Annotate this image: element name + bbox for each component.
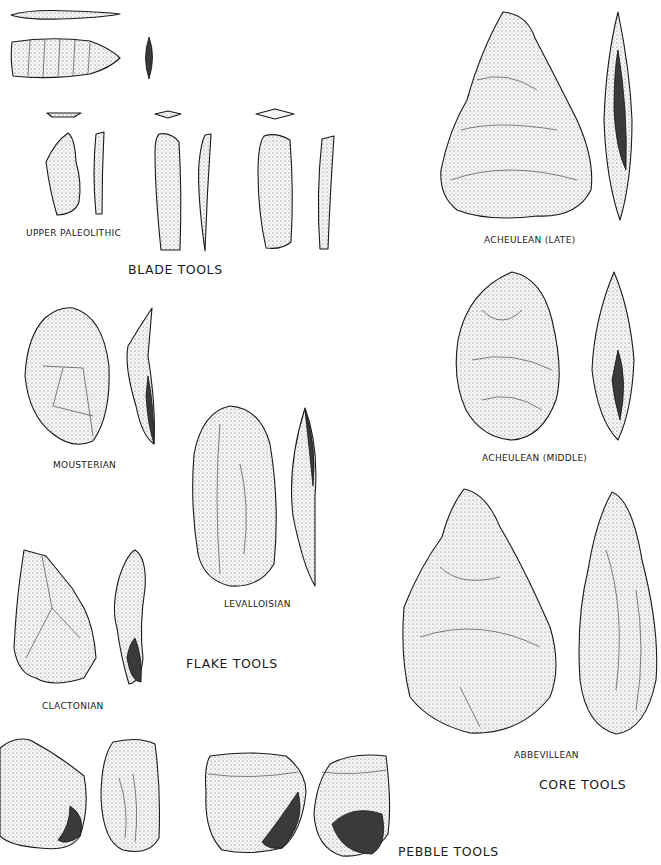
acheulean-middle-face bbox=[452, 270, 564, 442]
blade-2-section bbox=[154, 110, 182, 119]
label-mousterian: MOUSTERIAN bbox=[53, 460, 116, 470]
pebble-tool-1-face bbox=[0, 736, 90, 852]
group-label-flake-tools: FLAKE TOOLS bbox=[186, 656, 278, 671]
group-label-core-tools: CORE TOOLS bbox=[539, 777, 626, 792]
levalloisian-side bbox=[285, 406, 321, 588]
blade-1-section bbox=[46, 110, 82, 118]
label-levalloisian: LEVALLOISIAN bbox=[224, 599, 291, 609]
group-label-pebble-tools: PEBBLE TOOLS bbox=[398, 844, 499, 859]
label-acheulean-late: ACHEULEAN (LATE) bbox=[484, 235, 575, 245]
clactonian-face bbox=[12, 548, 98, 686]
levalloisian-face bbox=[190, 404, 280, 588]
pebble-tool-1-side bbox=[99, 738, 163, 856]
blade-point-edge-view bbox=[10, 8, 122, 22]
abbevillean-side bbox=[576, 490, 660, 736]
pebble-tool-2-side bbox=[312, 754, 392, 858]
stone-tools-figure: UPPER PALEOLITHIC BLADE TOOLS MOUSTERIAN… bbox=[0, 0, 661, 865]
blade-1-face bbox=[45, 132, 83, 216]
group-label-blade-tools: BLADE TOOLS bbox=[128, 262, 223, 277]
clactonian-side bbox=[109, 548, 149, 686]
blade-3-side bbox=[314, 135, 336, 251]
blade-1-side bbox=[90, 132, 106, 216]
label-abbevillean: ABBEVILLEAN bbox=[514, 750, 579, 760]
abbevillean-face bbox=[400, 487, 562, 737]
acheulean-late-side bbox=[600, 10, 636, 222]
acheulean-late-face bbox=[437, 10, 595, 222]
blade-3-section bbox=[255, 108, 295, 120]
label-acheulean-middle: ACHEULEAN (MIDDLE) bbox=[482, 453, 587, 463]
laurel-leaf-side-view bbox=[140, 36, 158, 80]
pebble-tool-2-face bbox=[202, 752, 308, 856]
mousterian-face bbox=[23, 306, 111, 448]
label-upper-paleolithic: UPPER PALEOLITHIC bbox=[26, 228, 121, 238]
blade-3-face bbox=[256, 132, 296, 250]
blade-2-side bbox=[195, 133, 213, 253]
blade-2-face bbox=[153, 132, 185, 252]
label-clactonian: CLACTONIAN bbox=[42, 701, 104, 711]
solutrean-laurel-leaf-point bbox=[10, 36, 122, 80]
mousterian-side bbox=[122, 306, 158, 446]
acheulean-middle-side bbox=[588, 270, 636, 442]
